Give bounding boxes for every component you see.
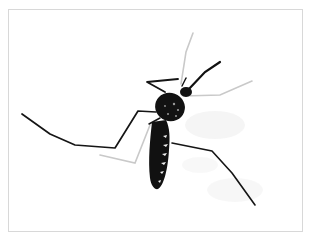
photo-frame-border	[8, 9, 303, 232]
